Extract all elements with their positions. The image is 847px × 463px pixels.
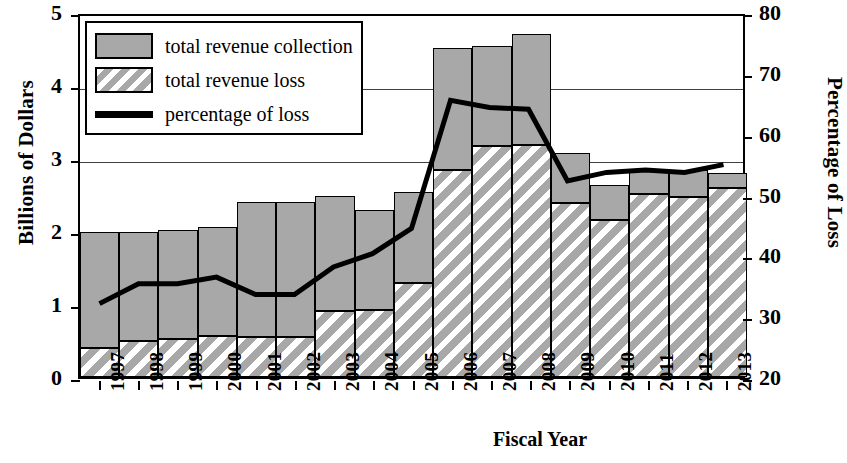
y-tick-label-left: 1 xyxy=(16,294,62,316)
x-tick-label: 1998 xyxy=(146,352,168,391)
x-tick xyxy=(687,381,689,390)
x-tick-label: 2000 xyxy=(224,352,246,391)
x-tick xyxy=(491,381,493,390)
y-tick-right xyxy=(743,76,752,78)
x-axis-title: Fiscal Year xyxy=(430,428,650,451)
x-tick xyxy=(177,381,179,390)
y-axis-right-title: Percentage of Loss xyxy=(822,33,847,293)
x-tick xyxy=(216,381,218,390)
x-tick-label: 1999 xyxy=(185,352,207,391)
legend-item-loss: total revenue loss xyxy=(95,63,353,97)
x-tick xyxy=(648,381,650,390)
x-tick-label: 2010 xyxy=(617,352,639,391)
x-tick xyxy=(569,381,571,390)
x-tick xyxy=(726,381,728,390)
x-tick-label: 2002 xyxy=(303,352,325,391)
x-tick xyxy=(256,381,258,390)
y-tick-label-left: 4 xyxy=(16,75,62,97)
y-tick-label-right: 60 xyxy=(759,124,807,146)
y-tick-left xyxy=(71,234,80,236)
x-tick xyxy=(413,381,415,390)
y-tick-label-left: 5 xyxy=(16,2,62,24)
x-tick xyxy=(295,381,297,390)
x-tick xyxy=(373,381,375,390)
legend-item-collection: total revenue collection xyxy=(95,29,353,63)
black-line-swatch-icon xyxy=(95,111,153,118)
y-tick-label-left: 3 xyxy=(16,148,62,170)
x-tick-label: 2007 xyxy=(499,352,521,391)
x-tick xyxy=(138,381,140,390)
y-tick-label-right: 80 xyxy=(759,2,807,24)
y-tick-right xyxy=(743,198,752,200)
y-tick-label-left: 2 xyxy=(16,221,62,243)
y-tick-label-right: 50 xyxy=(759,185,807,207)
legend-label-collection: total revenue collection xyxy=(165,36,353,56)
x-tick-label: 2012 xyxy=(695,352,717,391)
x-tick xyxy=(530,381,532,390)
y-tick-right xyxy=(743,137,752,139)
legend-label-loss: total revenue loss xyxy=(165,70,305,90)
x-tick-label: 2013 xyxy=(734,352,756,391)
x-tick xyxy=(452,381,454,390)
x-tick-label: 2003 xyxy=(342,352,364,391)
y-tick-right xyxy=(743,258,752,260)
y-tick-label-right: 70 xyxy=(759,63,807,85)
legend-item-percentage: percentage of loss xyxy=(95,97,353,131)
x-tick xyxy=(334,381,336,390)
x-tick xyxy=(609,381,611,390)
x-tick-label: 2009 xyxy=(577,352,599,391)
legend-label-percentage: percentage of loss xyxy=(165,104,309,124)
y-tick-left xyxy=(71,307,80,309)
y-tick-left xyxy=(71,161,80,163)
x-tick-label: 2004 xyxy=(381,352,403,391)
y-tick-label-right: 40 xyxy=(759,245,807,267)
y-tick-left xyxy=(71,15,80,17)
y-tick-label-left: 0 xyxy=(16,367,62,389)
x-tick-label: 2011 xyxy=(656,353,678,391)
y-tick-left xyxy=(71,88,80,90)
y-tick-label-right: 20 xyxy=(759,367,807,389)
x-tick xyxy=(99,381,101,390)
x-tick-label: 2006 xyxy=(460,352,482,391)
gray-square-swatch-icon xyxy=(95,33,153,59)
y-tick-right xyxy=(743,15,752,17)
y-tick-left xyxy=(71,380,80,382)
x-tick-label: 1997 xyxy=(107,352,129,391)
legend: total revenue collection total revenue l… xyxy=(85,21,363,135)
x-tick-label: 2001 xyxy=(264,352,286,391)
y-tick-right xyxy=(743,319,752,321)
y-tick-label-right: 30 xyxy=(759,306,807,328)
hatched-square-swatch-icon xyxy=(95,67,153,93)
x-tick-label: 2005 xyxy=(421,352,443,391)
x-tick-label: 2008 xyxy=(538,352,560,391)
